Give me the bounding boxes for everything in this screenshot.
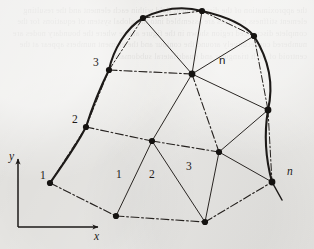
mesh-nodes (47, 8, 276, 225)
node-bottom-left (113, 213, 119, 219)
edge-r-hub (192, 74, 268, 110)
edge-ir-br (205, 152, 219, 222)
node-1 (47, 180, 53, 186)
edge-il-ir (152, 141, 219, 152)
node-top-right (251, 33, 257, 39)
figure-canvas: the approximation of the displacement fi… (0, 0, 314, 249)
edge-br-n (205, 182, 272, 222)
edge-bl-br (116, 216, 205, 222)
bottom-boundary-edges (50, 182, 272, 222)
edge-ir-n (219, 152, 272, 182)
node-right (265, 107, 272, 114)
edge-hub-ir (192, 74, 219, 152)
boundary-top-left (143, 8, 202, 18)
coordinate-axes (18, 159, 98, 227)
node-2 (83, 124, 89, 130)
edge-tr-hub (192, 36, 254, 74)
edge-1-bl (50, 183, 116, 216)
edge-tm-hub (192, 11, 202, 74)
node-top-left (140, 15, 146, 21)
edge-3-hub (109, 70, 192, 74)
edge-il-bl (116, 141, 152, 216)
node-3 (106, 67, 112, 73)
domain-boundary-curves (50, 8, 282, 200)
node-interior-left (149, 138, 155, 144)
chord-3-tl (109, 18, 143, 70)
edge-il-br (152, 141, 205, 222)
edge-tl-hub (143, 18, 192, 74)
boundary-chords (50, 11, 272, 183)
node-interior-right (216, 149, 222, 155)
node-hub (189, 71, 196, 78)
interior-edges-solid (116, 11, 272, 222)
edge-2-il (86, 127, 152, 141)
mesh-diagram (0, 0, 314, 249)
edge-r-ir (219, 110, 268, 152)
boundary-left-lower (50, 127, 86, 183)
chord-tm-tr (202, 11, 254, 36)
edge-hub-il (152, 74, 192, 141)
node-bottom-right (202, 219, 208, 225)
node-n (269, 179, 276, 186)
node-top-mid (199, 8, 205, 14)
